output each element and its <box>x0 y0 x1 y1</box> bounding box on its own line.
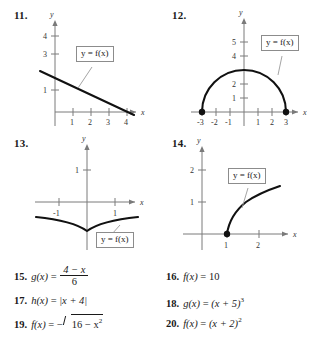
problem-19-fn: f(x) <box>31 319 46 330</box>
problem-18-body: (x + 5) <box>211 298 240 309</box>
problem-18-exponent: 3 <box>240 296 244 304</box>
y-axis-arrow <box>199 146 204 152</box>
callout-leader <box>278 56 282 75</box>
y-axis-arrow <box>84 144 89 150</box>
y-tick-1: 1 <box>232 94 236 103</box>
figure-13-callout: y = f(x) <box>96 232 134 248</box>
problem-19: 19.f(x) = −16 − x2 <box>14 314 103 331</box>
y-tick-1: 1 <box>190 198 194 207</box>
problem-18-number: 18. <box>166 298 179 309</box>
problem-15-denominator: 6 <box>60 276 88 288</box>
y-axis-label: y <box>49 10 54 19</box>
y-tick-2: 2 <box>232 80 236 89</box>
callout-leader <box>242 188 248 208</box>
problem-19-number: 19. <box>14 319 27 330</box>
problem-15-numerator: 4 − x <box>60 264 88 276</box>
problem-17-equals: = <box>51 295 57 306</box>
problem-16-number: 16. <box>166 271 179 282</box>
problem-16-equals: = <box>200 271 206 282</box>
x-tick-4: 4 <box>124 118 128 127</box>
y-axis-arrow <box>241 18 246 24</box>
x-tick-neg3: -3 <box>197 118 204 127</box>
x-axis-arrow <box>129 199 135 204</box>
x-axis-label: x <box>292 230 297 239</box>
figure-13-plot: -1 1 1 x y <box>0 128 158 258</box>
problem-17-body: |x + 4| <box>59 295 87 306</box>
problem-15-fn: g(x) <box>31 271 48 282</box>
endpoint-right <box>283 109 289 115</box>
y-tick-4: 4 <box>232 52 236 61</box>
problem-20-exponent: 2 <box>238 316 242 324</box>
problem-20-fn: f(x) <box>183 318 198 329</box>
y-tick-4: 4 <box>43 32 47 41</box>
y-tick-2: 2 <box>190 166 194 175</box>
y-tick-1: 1 <box>43 86 47 95</box>
problem-20: 20.f(x) = (x + 2)2 <box>166 314 242 330</box>
problem-20-body: (x + 2) <box>209 318 238 329</box>
callout-text: y = f(x) <box>101 234 129 244</box>
y-axis-label: y <box>81 134 86 143</box>
figure-14-callout: y = f(x) <box>228 168 266 184</box>
x-tick-1: 1 <box>256 118 260 127</box>
problem-18: 18.g(x) = (x + 5)3 <box>166 294 244 310</box>
x-axis-label: x <box>302 108 307 117</box>
problem-row-19-20: 19.f(x) = −16 − x2 20.f(x) = (x + 2)2 <box>0 314 316 334</box>
figure-12-callout: y = f(x) <box>261 35 299 51</box>
problem-16: 16.f(x) = 10 <box>166 270 219 283</box>
problem-15-equals: = <box>51 271 57 282</box>
x-axis-arrow <box>292 109 298 114</box>
problem-15-number: 15. <box>14 271 27 282</box>
x-tick-neg1: -1 <box>53 209 60 218</box>
x-tick-3: 3 <box>106 118 110 127</box>
problem-18-fn: g(x) <box>183 298 200 309</box>
callout-text: y = f(x) <box>266 37 294 47</box>
y-axis-arrow <box>52 20 57 26</box>
problem-16-fn: f(x) <box>183 271 198 282</box>
problem-list: 15.g(x) = 4 − x 6 16.f(x) = 10 17.h(x) =… <box>0 258 316 348</box>
x-tick-3: 3 <box>284 118 288 127</box>
problem-row-15-16: 15.g(x) = 4 − x 6 16.f(x) = 10 <box>0 260 316 292</box>
y-tick-1: 1 <box>75 166 79 175</box>
problem-18-equals: = <box>203 298 209 309</box>
problem-19-radical: 16 − x2 <box>63 314 103 331</box>
function-line <box>40 71 134 115</box>
problem-15: 15.g(x) = 4 − x 6 <box>14 264 89 288</box>
y-tick-3: 3 <box>43 50 47 59</box>
problem-17-fn: h(x) <box>31 295 48 306</box>
problem-20-number: 20. <box>166 318 179 329</box>
problem-19-radicand: 16 − x <box>72 319 99 330</box>
figure-11-callout: y = f(x) <box>76 46 114 62</box>
figure-12: 12. -3 -2 -1 <box>158 0 316 130</box>
problem-19-equals: = <box>48 319 54 330</box>
callout-leader <box>78 67 92 88</box>
sqrt-curve <box>227 186 280 234</box>
x-tick-2: 2 <box>256 241 260 250</box>
figure-13: 13. -1 1 1 x y y = f(x) <box>0 128 158 258</box>
x-axis-label: x <box>140 108 145 117</box>
x-tick-2: 2 <box>88 118 92 127</box>
x-tick-neg1: -1 <box>225 118 232 127</box>
problem-16-body: 10 <box>209 271 220 282</box>
x-tick-1: 1 <box>224 241 228 250</box>
x-axis-label: x <box>139 198 144 207</box>
problem-row-17-18: 17.h(x) = |x + 4| 18.g(x) = (x + 5)3 <box>0 294 316 314</box>
figure-11-plot: 1 2 3 4 1 3 4 x y <box>0 0 158 130</box>
problem-17-number: 17. <box>14 295 27 306</box>
problem-15-fraction: 4 − x 6 <box>60 264 88 288</box>
x-tick-neg2: -2 <box>211 118 218 127</box>
problem-19-radicand-exponent: 2 <box>99 317 103 325</box>
figure-14-plot: 1 2 1 2 x y <box>158 128 316 258</box>
figure-11: 11. 1 2 3 4 1 <box>0 0 158 130</box>
problem-20-equals: = <box>200 318 206 329</box>
y-axis-label: y <box>238 8 243 17</box>
start-point <box>224 231 230 237</box>
callout-text: y = f(x) <box>81 48 109 58</box>
exercise-page: 11. 1 2 3 4 1 <box>0 0 316 348</box>
y-tick-5: 5 <box>232 38 236 47</box>
figure-12-plot: -3 -2 -1 1 2 3 1 2 4 5 x y <box>158 0 316 130</box>
x-axis-arrow <box>282 231 288 236</box>
y-axis-label: y <box>196 136 201 145</box>
endpoint-left <box>199 109 205 115</box>
problem-17: 17.h(x) = |x + 4| <box>14 294 87 307</box>
x-tick-1: 1 <box>113 209 117 218</box>
